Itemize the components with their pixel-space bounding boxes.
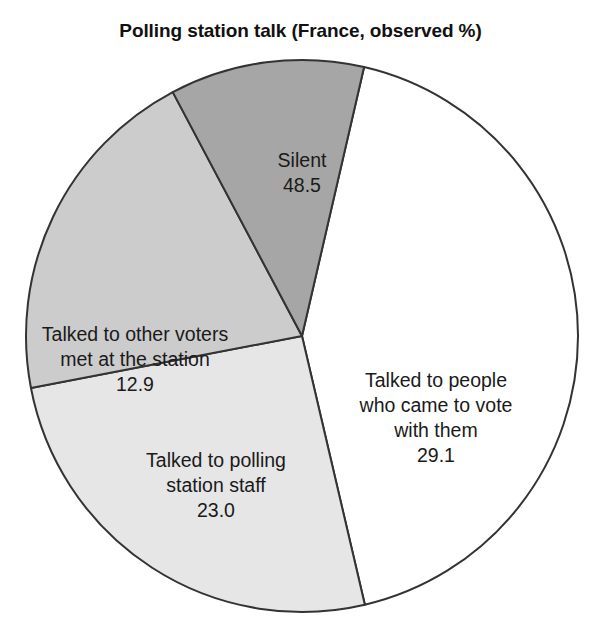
pie-svg — [0, 0, 601, 639]
pie-plot-area: Silent 48.5 Talked to people who came to… — [0, 0, 601, 639]
pie-slice-group — [26, 60, 578, 612]
pie-chart-figure: Polling station talk (France, observed %… — [0, 0, 601, 639]
